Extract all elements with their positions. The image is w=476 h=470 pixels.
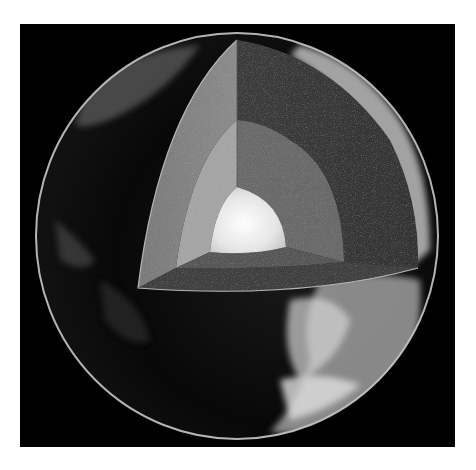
earth-cutaway-illustration (0, 0, 476, 470)
